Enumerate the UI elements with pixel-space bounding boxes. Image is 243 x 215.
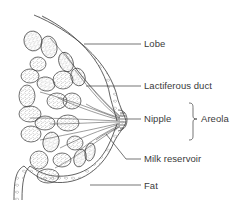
areola-brace	[189, 103, 197, 140]
label-lactiferous-duct: Lactiferous duct	[144, 80, 212, 91]
lobes	[19, 29, 96, 183]
leader-lines	[84, 44, 141, 185]
label-milk-reservoir: Milk reservoir	[144, 153, 201, 164]
fat-layer-upper	[34, 15, 126, 122]
label-areola: Areola	[201, 113, 229, 124]
breast-anatomy-diagram: Lobe Lactiferous duct Nipple Areola Milk…	[0, 0, 243, 215]
label-lobe: Lobe	[144, 38, 165, 49]
diagram-illustration	[0, 0, 243, 215]
label-nipple: Nipple	[144, 113, 171, 124]
label-fat: Fat	[144, 180, 158, 191]
fat-layer-chestwall	[14, 166, 30, 200]
